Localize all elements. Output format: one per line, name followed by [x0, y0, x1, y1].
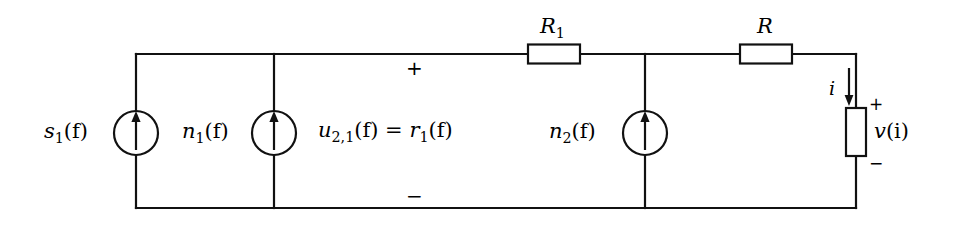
label-node-voltage: u2,1(f) = r1(f)	[318, 120, 453, 144]
label-current-i: i	[829, 79, 835, 98]
resistor-r-body	[740, 45, 792, 64]
current-source-n1	[252, 111, 296, 155]
current-source-s1	[114, 111, 158, 155]
label-source-n2: n2(f)	[549, 121, 596, 145]
label-load-voltage: v(i)	[874, 121, 909, 142]
current-source-n2	[623, 111, 667, 155]
circuit-schematic-canvas	[0, 0, 955, 226]
label-resistor-r1: R1	[540, 16, 565, 40]
label-source-n1: n1(f)	[182, 121, 229, 145]
polarity-plus-load: +	[869, 96, 883, 113]
circuit-diagram: s1(f) n1(f) u2,1(f) = r1(f) n2(f) R1 R i…	[0, 0, 955, 226]
label-source-s1: s1(f)	[44, 121, 88, 145]
resistor-load-body	[846, 108, 866, 156]
current-arrow-i	[845, 68, 854, 106]
resistor-r1-body	[528, 45, 580, 64]
label-resistor-r: R	[757, 16, 773, 40]
polarity-minus-load: −	[869, 155, 883, 172]
polarity-plus-node: +	[406, 58, 423, 78]
polarity-minus-node: −	[406, 186, 423, 206]
